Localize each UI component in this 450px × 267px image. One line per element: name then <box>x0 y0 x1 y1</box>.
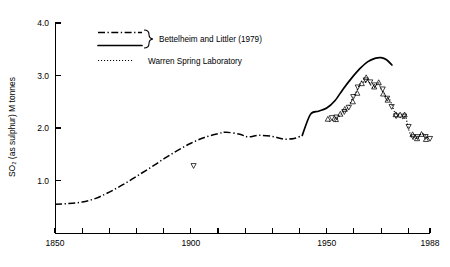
y-axis-title: SO₂ (as sulphur) M tonnes <box>7 77 17 177</box>
x-tick-label: 1950 <box>317 238 336 248</box>
legend-label-warren-spring: Warren Spring Laboratory <box>148 57 243 66</box>
series-bettelheim-littler-dashdot <box>55 132 302 204</box>
legend-brace-icon <box>144 30 153 48</box>
series-marker-group <box>325 75 432 142</box>
data-point-marker <box>376 80 381 85</box>
data-point-marker <box>350 99 355 104</box>
legend: Bettelheim and Littler (1979) Warren Spr… <box>98 30 262 66</box>
x-axis: 185019001950 1988 <box>46 228 440 248</box>
y-tick-label-group: 1.02.03.04.0 <box>37 18 49 186</box>
legend-item-warren-spring: Warren Spring Laboratory <box>98 57 243 66</box>
so2-emissions-line-chart: 1.02.03.04.0 SO₂ (as sulphur) M tonnes 1… <box>0 0 450 267</box>
data-point-marker <box>381 91 386 96</box>
series-bettelheim-littler-solid <box>302 58 392 136</box>
x-tick-group <box>55 228 430 233</box>
data-point-marker <box>338 111 343 116</box>
x-tick-label: 1900 <box>181 238 200 248</box>
isolated-data-point-marker <box>191 164 196 169</box>
data-point-marker <box>406 124 411 129</box>
y-tick-label: 2.0 <box>37 123 49 133</box>
isolated-marker-group <box>191 164 196 169</box>
x-tick-label: 1850 <box>46 238 65 248</box>
data-point-marker <box>342 107 347 112</box>
chart-figure: 1.02.03.04.0 SO₂ (as sulphur) M tonnes 1… <box>0 0 450 267</box>
data-point-marker <box>368 80 373 85</box>
y-tick-label: 3.0 <box>37 71 49 81</box>
y-tick-label: 1.0 <box>37 176 49 186</box>
data-point-marker <box>364 75 369 80</box>
y-axis: 1.02.03.04.0 SO₂ (as sulphur) M tonnes <box>7 18 61 233</box>
data-point-marker <box>355 90 360 95</box>
legend-item-bettelheim: Bettelheim and Littler (1979) <box>98 30 262 48</box>
y-tick-label: 4.0 <box>37 18 49 28</box>
legend-label-bettelheim: Bettelheim and Littler (1979) <box>159 35 262 44</box>
x-axis-end-label: 1988 <box>421 238 440 248</box>
data-series-group <box>55 58 433 205</box>
x-tick-label-group: 185019001950 <box>46 238 337 248</box>
